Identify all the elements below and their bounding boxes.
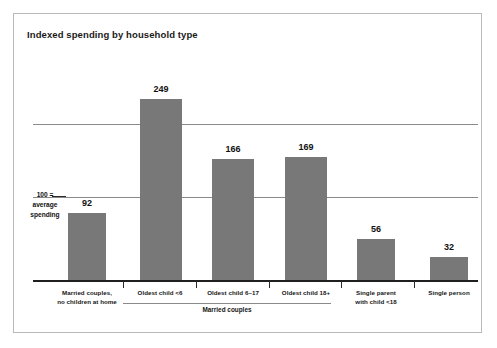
category-label-line: with child <18 xyxy=(336,297,416,306)
category-label-single-parent: Single parent with child <18 xyxy=(336,288,416,306)
bar-married-no-children xyxy=(68,213,106,280)
plot-area: 92 249 166 169 56 32 Married couples, no… xyxy=(0,0,497,348)
bar-value-label: 56 xyxy=(357,224,395,234)
group-bracket-label: Married couples xyxy=(123,306,331,313)
axis-tick xyxy=(123,281,124,288)
chart-screenshot: Indexed spending by household type 92 24… xyxy=(0,0,497,348)
bar-value-label: 92 xyxy=(68,198,106,208)
axis-baseline xyxy=(33,280,478,282)
category-label-line: Single person xyxy=(409,288,489,297)
bar-single-person xyxy=(430,257,468,280)
bar-value-label: 249 xyxy=(140,84,182,94)
category-label-line: Single parent xyxy=(336,288,416,297)
axis-note-line: average xyxy=(22,200,68,210)
axis-reference-note: 100 = average spending xyxy=(22,190,68,220)
bar-oldest-child-18-plus xyxy=(285,157,327,280)
category-label-oldest-child-6-17: Oldest child 6–17 xyxy=(191,288,275,297)
category-label-line: Oldest child <6 xyxy=(118,288,202,297)
bar-value-label: 32 xyxy=(430,242,468,252)
category-label-line: Oldest child 6–17 xyxy=(191,288,275,297)
axis-tick xyxy=(341,281,342,288)
bar-oldest-child-under-6 xyxy=(140,99,182,280)
gridline-200 xyxy=(33,124,478,125)
category-label-line: no children at home xyxy=(42,297,132,306)
axis-tick xyxy=(196,281,197,288)
axis-note-dash xyxy=(52,196,66,197)
axis-tick xyxy=(269,281,270,288)
group-bracket-line xyxy=(123,303,331,304)
bar-single-parent-child-under-18 xyxy=(357,239,395,280)
axis-note-line: 100 = xyxy=(22,190,68,200)
category-label-oldest-child-under-6: Oldest child <6 xyxy=(118,288,202,297)
axis-tick xyxy=(414,281,415,288)
axis-note-line: spending xyxy=(22,210,68,220)
bar-value-label: 166 xyxy=(212,144,254,154)
bar-value-label: 169 xyxy=(285,142,327,152)
bar-oldest-child-6-17 xyxy=(212,159,254,280)
category-label-single-person: Single person xyxy=(409,288,489,297)
